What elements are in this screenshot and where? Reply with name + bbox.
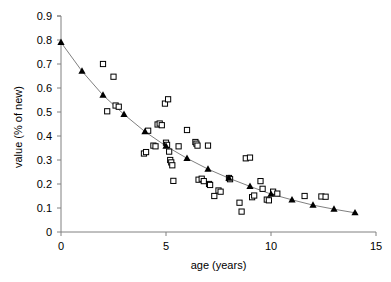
y-tick-label: 0.4	[0, 131, 52, 142]
y-tick-label: 0.2	[0, 179, 52, 190]
data-point-square	[153, 144, 158, 149]
data-point-square	[247, 155, 252, 160]
data-point-triangle	[204, 165, 211, 171]
axis-ticks	[57, 16, 376, 236]
data-point-square	[105, 109, 110, 114]
data-point-square	[170, 163, 175, 168]
data-point-square	[302, 193, 307, 198]
data-point-square	[111, 74, 116, 79]
data-point-square	[237, 200, 242, 205]
data-point-square	[266, 198, 271, 203]
y-tick-label: 0.8	[0, 35, 52, 46]
data-point-square	[184, 127, 189, 132]
data-point-square	[100, 61, 105, 66]
data-point-square	[260, 186, 265, 191]
observed-data-markers	[100, 61, 328, 214]
x-tick-label: 5	[163, 241, 169, 252]
data-point-square	[208, 182, 213, 187]
data-point-square	[239, 209, 244, 214]
x-tick-label: 15	[370, 241, 382, 252]
data-point-square	[323, 194, 328, 199]
data-point-square	[171, 178, 176, 183]
y-tick-label: 0.3	[0, 155, 52, 166]
y-tick-label: 0	[0, 227, 52, 238]
scatter-chart: 00.10.20.30.40.50.60.70.80.9 051015 age …	[0, 0, 391, 282]
x-tick-label: 0	[58, 241, 64, 252]
axis-lines	[61, 16, 376, 232]
data-point-square	[195, 143, 200, 148]
data-point-square	[166, 97, 171, 102]
y-tick-label: 0.6	[0, 83, 52, 94]
y-tick-label: 0.1	[0, 203, 52, 214]
x-axis-title: age (years)	[191, 259, 247, 271]
data-point-square	[218, 189, 223, 194]
data-point-square	[176, 144, 181, 149]
data-point-triangle	[183, 154, 190, 160]
data-point-square	[212, 193, 217, 198]
data-point-square	[258, 179, 263, 184]
y-axis-title: value (% of new)	[12, 86, 24, 168]
data-point-square	[252, 193, 257, 198]
data-point-square	[116, 104, 121, 109]
data-point-square	[275, 191, 280, 196]
x-tick-label: 10	[265, 241, 277, 252]
data-point-square	[167, 149, 172, 154]
data-point-square	[143, 149, 148, 154]
data-point-square	[205, 143, 210, 148]
y-tick-label: 0.5	[0, 107, 52, 118]
y-tick-label: 0.7	[0, 59, 52, 70]
data-point-square	[201, 179, 206, 184]
y-tick-label: 0.9	[0, 11, 52, 22]
data-point-square	[159, 123, 164, 128]
